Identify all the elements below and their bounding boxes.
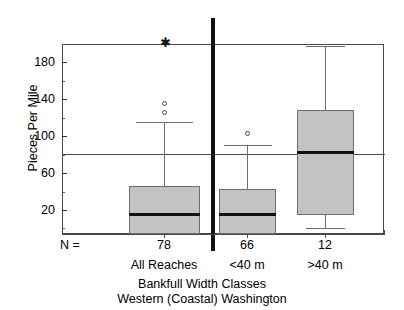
y-tick-major-60 [62, 173, 67, 174]
x-axis-left-cap [62, 230, 63, 235]
y-tick-minor-120 [62, 118, 65, 119]
whisker-line-lower-3 [325, 215, 326, 228]
category-label-over-40m: >40 m [270, 258, 380, 272]
y-tick-minor-40 [62, 192, 65, 193]
x-axis-title: Bankfull Width Classes [0, 277, 404, 291]
y-tick-major-140 [62, 99, 67, 100]
outlier-circle-2a [245, 131, 250, 136]
whisker-line-upper-3 [325, 46, 326, 110]
median-line-under-40m [219, 213, 276, 216]
x-axis-right-cap [384, 230, 385, 235]
y-tick-label-180: 180 [19, 56, 55, 68]
y-tick-major-20 [62, 210, 67, 211]
y-tick-minor-160 [62, 81, 65, 82]
y-tick-major-100 [62, 136, 67, 137]
x-axis-subtitle: Western (Coastal) Washington [0, 292, 404, 306]
whisker-line-upper-2 [247, 145, 248, 189]
box-over-40m [297, 110, 354, 215]
y-tick-label-60: 60 [19, 167, 55, 179]
y-tick-label-100: 100 [19, 130, 55, 142]
y-axis-tick-labels: 180 140 100 60 20 [17, 0, 55, 250]
y-tick-minor-200 [62, 44, 65, 45]
n-value-all-reaches: 78 [134, 238, 194, 252]
median-line-over-40m [297, 151, 354, 154]
y-tick-label-140: 140 [19, 93, 55, 105]
whisker-line-upper-1 [164, 122, 165, 186]
y-tick-minor-0 [62, 228, 65, 229]
x-axis-line [62, 234, 385, 235]
n-value-under-40m: 66 [217, 238, 277, 252]
box-all-reaches [129, 186, 200, 234]
extreme-outlier-marker-1: ✱ [160, 40, 171, 46]
n-equals-label: N = [60, 238, 80, 252]
y-tick-label-20: 20 [19, 204, 55, 216]
group-separator-line [211, 18, 215, 251]
outlier-circle-1a [162, 101, 167, 106]
whisker-cap-lower-3 [306, 228, 345, 229]
boxplot-figure: Pieces Per Mile 180 140 100 60 20 ✱ [0, 0, 404, 310]
box-under-40m [219, 189, 276, 234]
y-tick-minor-80 [62, 155, 65, 156]
whisker-cap-upper-2 [224, 145, 272, 146]
y-tick-major-180 [62, 62, 67, 63]
median-line-all-reaches [129, 213, 200, 216]
n-value-over-40m: 12 [295, 238, 355, 252]
outlier-circle-1b [162, 110, 167, 115]
